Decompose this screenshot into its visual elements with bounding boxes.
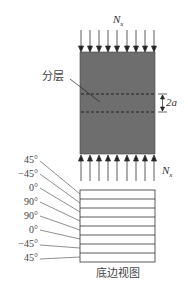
top-load-label: Nx [113, 14, 123, 28]
ply-angle-2: −45° [8, 169, 38, 179]
bottom-load-label: Nx [162, 165, 172, 179]
ply-angle-5: 90° [8, 211, 38, 221]
ply-angle-7: −45° [8, 239, 38, 249]
load-subscript: x [169, 171, 172, 179]
delamination-size-label: 2a [166, 97, 177, 108]
ply-angle-4: 90° [8, 197, 38, 207]
ply-angle-1: 45° [8, 155, 38, 165]
layup-stack [80, 190, 155, 262]
load-subscript: x [120, 20, 123, 28]
ply-angle-6: 0° [8, 225, 38, 235]
ply-angle-3: 0° [8, 183, 38, 193]
bottom-view-label: 底边视图 [96, 268, 140, 279]
delamination-label: 分层 [42, 71, 64, 82]
laminate-panel [80, 52, 155, 154]
top-load-arrows [79, 30, 157, 52]
ply-angle-8: 45° [8, 253, 38, 263]
ply-leader-lines [40, 161, 80, 259]
bottom-load-arrows [79, 155, 157, 181]
